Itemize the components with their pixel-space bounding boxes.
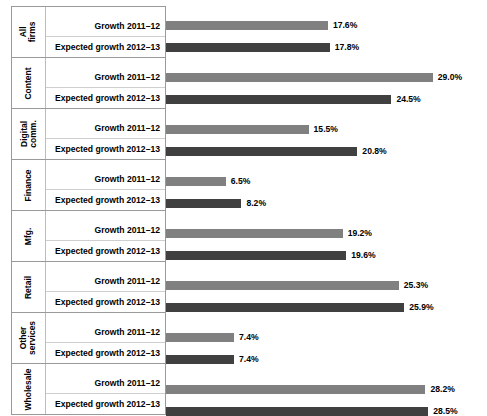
category-group: AllfirmsGrowth 2011–12Expected growth 20… xyxy=(12,6,166,57)
category-group: FinanceGrowth 2011–12Expected growth 201… xyxy=(12,159,166,210)
category-label: Otherservices xyxy=(20,321,38,355)
bar-row: 7.4% xyxy=(166,355,259,364)
bar-row: 17.8% xyxy=(166,43,359,52)
category-group: Mfg.Growth 2011–12Expected growth 2012–1… xyxy=(12,210,166,261)
category-group: OtherservicesGrowth 2011–12Expected grow… xyxy=(12,312,166,363)
bar-value-label: 8.2% xyxy=(246,199,266,208)
category-label: Retail xyxy=(24,275,33,298)
category-label-table: AllfirmsGrowth 2011–12Expected growth 20… xyxy=(11,6,166,415)
group-spacer xyxy=(46,262,165,270)
group-spacer xyxy=(46,58,165,66)
series-rows: Growth 2011–12Expected growth 2012–13 xyxy=(46,160,166,210)
series-row: Expected growth 2012–13 xyxy=(46,240,165,261)
bar xyxy=(166,73,433,82)
bar-value-label: 19.6% xyxy=(351,251,375,260)
series-row: Growth 2011–12 xyxy=(46,15,165,36)
series-row: Growth 2011–12 xyxy=(46,321,165,342)
bar-value-label: 6.5% xyxy=(231,177,251,186)
category-label-line: Retail xyxy=(24,275,33,298)
category-label-cell: Retail xyxy=(12,262,46,312)
bar-row: 19.6% xyxy=(166,251,376,260)
category-label: Finance xyxy=(24,169,33,201)
bar xyxy=(166,229,343,238)
series-row: Expected growth 2012–13 xyxy=(46,393,165,414)
category-label-line: Wholesale xyxy=(24,368,33,410)
bar-row: 15.5% xyxy=(166,125,338,134)
bar xyxy=(166,177,226,186)
bar xyxy=(166,407,428,416)
group-spacer xyxy=(46,313,165,321)
series-rows: Growth 2011–12Expected growth 2012–13 xyxy=(46,211,166,261)
series-rows: Growth 2011–12Expected growth 2012–13 xyxy=(46,109,166,159)
bar-row: 8.2% xyxy=(166,199,266,208)
bar-row: 20.8% xyxy=(166,147,387,156)
bar-row: 24.5% xyxy=(166,95,421,104)
series-row: Expected growth 2012–13 xyxy=(46,138,165,159)
bar-row: 25.3% xyxy=(166,281,428,290)
plot-area: 17.6%17.8%29.0%24.5%15.5%20.8%6.5%8.2%19… xyxy=(166,6,487,391)
category-label-cell: Digitalcomm. xyxy=(12,109,46,159)
bar-row: 29.0% xyxy=(166,73,462,82)
bar-value-label: 24.5% xyxy=(396,95,420,104)
group-spacer xyxy=(46,109,165,117)
series-rows: Growth 2011–12Expected growth 2012–13 xyxy=(46,364,166,414)
bar-value-label: 17.8% xyxy=(335,43,359,52)
category-label-line: Mfg. xyxy=(24,227,33,244)
bar xyxy=(166,43,330,52)
category-label-line: Content xyxy=(24,67,33,99)
category-label-line: firms xyxy=(28,22,37,43)
series-row: Expected growth 2012–13 xyxy=(46,87,165,108)
series-row: Growth 2011–12 xyxy=(46,270,165,291)
category-label-cell: Wholesale xyxy=(12,364,46,414)
bar-row: 25.9% xyxy=(166,303,434,312)
bar-row: 6.5% xyxy=(166,177,250,186)
category-label: Content xyxy=(24,67,33,99)
bar xyxy=(166,21,328,30)
bar-value-label: 25.3% xyxy=(404,281,428,290)
bar xyxy=(166,125,309,134)
bar xyxy=(166,333,234,342)
group-spacer xyxy=(46,160,165,168)
series-row: Expected growth 2012–13 xyxy=(46,36,165,57)
bar-value-label: 28.5% xyxy=(433,407,457,416)
series-rows: Growth 2011–12Expected growth 2012–13 xyxy=(46,313,166,363)
category-label-cell: Finance xyxy=(12,160,46,210)
category-label-cell: Allfirms xyxy=(12,7,46,57)
category-label: Wholesale xyxy=(24,368,33,410)
bar xyxy=(166,385,425,394)
bar xyxy=(166,95,391,104)
group-spacer xyxy=(46,7,165,15)
bar-value-label: 28.2% xyxy=(430,385,454,394)
series-row: Expected growth 2012–13 xyxy=(46,342,165,363)
series-row: Growth 2011–12 xyxy=(46,219,165,240)
series-row: Expected growth 2012–13 xyxy=(46,291,165,312)
bar-row: 7.4% xyxy=(166,333,259,342)
bar-value-label: 15.5% xyxy=(314,125,338,134)
bar xyxy=(166,199,241,208)
group-spacer xyxy=(46,364,165,372)
bar-row: 28.5% xyxy=(166,407,458,416)
group-spacer xyxy=(46,211,165,219)
bar-value-label: 7.4% xyxy=(239,355,259,364)
category-label-cell: Content xyxy=(12,58,46,108)
category-label-cell: Mfg. xyxy=(12,211,46,261)
series-rows: Growth 2011–12Expected growth 2012–13 xyxy=(46,262,166,312)
bar xyxy=(166,147,357,156)
category-label: Allfirms xyxy=(20,22,38,43)
bar-row: 28.2% xyxy=(166,385,455,394)
category-label-line: services xyxy=(29,321,38,355)
category-label-cell: Otherservices xyxy=(12,313,46,363)
category-group: RetailGrowth 2011–12Expected growth 2012… xyxy=(12,261,166,312)
series-row: Growth 2011–12 xyxy=(46,372,165,393)
bar xyxy=(166,303,404,312)
series-rows: Growth 2011–12Expected growth 2012–13 xyxy=(46,58,166,108)
bar xyxy=(166,355,234,364)
series-row: Growth 2011–12 xyxy=(46,168,165,189)
bar-row: 17.6% xyxy=(166,21,357,30)
bar-value-label: 29.0% xyxy=(438,73,462,82)
series-row: Growth 2011–12 xyxy=(46,66,165,87)
bar-value-label: 20.8% xyxy=(362,147,386,156)
category-label: Digitalcomm. xyxy=(20,120,38,147)
bar-value-label: 17.6% xyxy=(333,21,357,30)
